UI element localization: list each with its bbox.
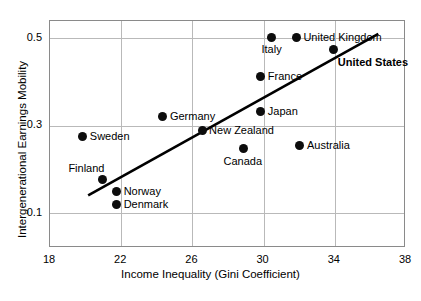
point-label: Sweden (90, 131, 130, 142)
point-label: Germany (170, 111, 215, 122)
y-axis-title: Intergenerational Earnings Mobility (16, 61, 28, 238)
gridline-x-34 (335, 21, 336, 246)
point-label: Japan (268, 106, 298, 117)
point-label: France (268, 71, 302, 82)
data-point[interactable] (292, 33, 301, 42)
point-label: Denmark (124, 199, 169, 210)
x-tick-label: 38 (388, 254, 421, 265)
data-point[interactable] (239, 144, 248, 153)
point-label: United Kingdom (303, 32, 381, 43)
scatter-chart: 0.50.30.1 182226303438 SwedenFinlandNorw… (0, 0, 421, 301)
point-label: New Zealand (209, 125, 274, 136)
point-label: Australia (307, 140, 350, 151)
data-point[interactable] (158, 112, 167, 121)
x-axis-title: Income Inequality (Gini Coefficient) (0, 268, 421, 280)
x-tick-label: 26 (174, 254, 208, 265)
gridline-y-0.1 (50, 213, 404, 214)
point-label: United States (338, 57, 408, 68)
data-point[interactable] (267, 33, 276, 42)
y-tick-label: 0.5 (8, 32, 42, 43)
point-label: Italy (262, 44, 282, 55)
x-tick-label: 30 (246, 254, 280, 265)
data-point[interactable] (198, 126, 207, 135)
x-tick-label: 34 (317, 254, 351, 265)
gridline-x-26 (192, 21, 193, 246)
point-label: Finland (68, 163, 104, 174)
x-tick-label: 18 (32, 254, 66, 265)
data-point[interactable] (329, 45, 338, 54)
point-label: Canada (224, 156, 263, 167)
x-tick-label: 22 (103, 254, 137, 265)
data-point[interactable] (98, 175, 107, 184)
point-label: Norway (124, 186, 161, 197)
